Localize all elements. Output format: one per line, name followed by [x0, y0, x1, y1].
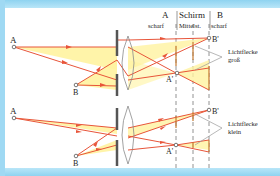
top-note-line1: Lichtflecke — [228, 48, 258, 55]
depth-of-field-diagram: A Schirm B scharf Mittelst. scharf A B B… — [0, 0, 280, 176]
top-image-b-label: B' — [212, 35, 219, 44]
top-point-b-label: B — [73, 88, 78, 97]
header-screen-sub: Mittelst. — [179, 22, 201, 29]
bottom-image-a-label: A' — [166, 147, 174, 156]
header-b-sub: scharf — [211, 22, 228, 29]
header-a-label: A — [162, 10, 169, 20]
image-a-icon — [174, 143, 178, 147]
top-image-a-label: A' — [166, 75, 174, 84]
point-b-icon — [74, 154, 78, 158]
top-point-a-label: A — [10, 35, 17, 45]
header-b-label: B — [217, 10, 223, 20]
bottom-note-line1: Lichtflecke — [228, 120, 258, 127]
image-b-icon — [207, 36, 211, 40]
image-a-icon — [175, 71, 179, 75]
top-note-line2: groß — [228, 56, 241, 63]
point-a-icon — [12, 45, 16, 49]
bottom-point-b-label: B — [73, 159, 78, 168]
bottom-point-a-label: A — [10, 106, 17, 116]
bottom-diagram — [12, 106, 222, 166]
point-b-icon — [74, 83, 78, 87]
top-diagram — [12, 30, 222, 96]
header-a-sub: scharf — [148, 22, 165, 29]
bottom-note-line2: klein — [228, 128, 242, 135]
image-b-icon — [207, 108, 211, 112]
header-screen-label: Schirm — [179, 10, 205, 20]
bottom-image-b-label: B' — [212, 107, 219, 116]
point-a-icon — [12, 116, 16, 120]
